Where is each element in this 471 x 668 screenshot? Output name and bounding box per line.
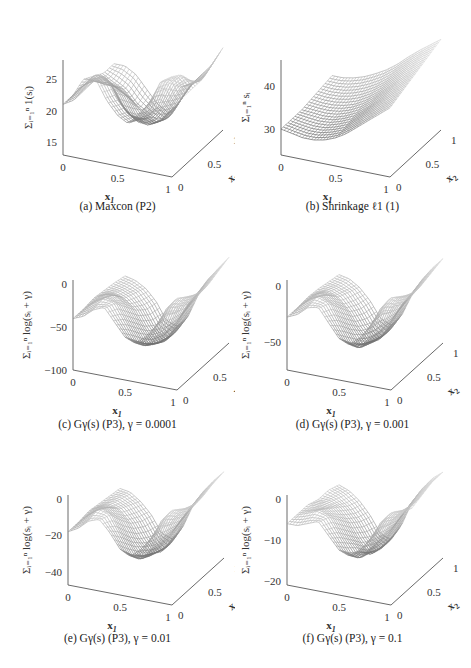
mesh-line (140, 286, 142, 287)
mesh-line (339, 80, 342, 81)
mesh-line (96, 516, 98, 518)
mesh-line (325, 494, 328, 495)
mesh-line (312, 128, 315, 129)
mesh-line (326, 500, 328, 501)
mesh-line (110, 501, 112, 502)
mesh-line (367, 525, 370, 530)
mesh-line (342, 489, 345, 491)
mesh-line (308, 136, 311, 137)
x2-tick-label: 0 (178, 609, 184, 621)
mesh-line (315, 117, 318, 118)
mesh-line (312, 100, 314, 103)
mesh-line (323, 303, 326, 305)
mesh-line (355, 508, 358, 512)
mesh-line (333, 508, 336, 511)
mesh-line (303, 116, 306, 117)
mesh-line (147, 517, 149, 518)
mesh-line (133, 503, 135, 504)
mesh-line (112, 67, 114, 70)
mesh-line (113, 494, 116, 495)
mesh-line (328, 518, 331, 523)
mesh-line (307, 105, 310, 106)
mesh-line (112, 66, 115, 67)
mesh-line (133, 501, 136, 503)
mesh-line (339, 105, 341, 108)
mesh-line (106, 527, 109, 531)
mesh-line (139, 85, 142, 89)
mesh-line (109, 500, 111, 501)
mesh-line (336, 96, 339, 97)
mesh-line (150, 314, 153, 319)
mesh-line (122, 113, 124, 114)
mesh-line (106, 299, 108, 300)
mesh-line (120, 289, 123, 290)
mesh-line (134, 81, 136, 85)
mesh-line (294, 123, 296, 125)
mesh-line (317, 298, 319, 300)
mesh-line (129, 510, 132, 514)
mesh-line (328, 82, 330, 85)
mesh-line (320, 302, 323, 303)
mesh-line (105, 97, 107, 98)
mesh-line (179, 86, 181, 87)
mesh-line (113, 282, 115, 284)
mesh-line (312, 129, 314, 131)
mesh-line (309, 128, 311, 130)
mesh-line (129, 281, 131, 283)
mesh-line (102, 515, 104, 517)
mesh-line (313, 106, 316, 107)
mesh-line (107, 303, 109, 305)
mesh-line (353, 513, 355, 514)
mesh-line (139, 555, 141, 556)
mesh-line (137, 281, 140, 283)
mesh-line (123, 500, 125, 501)
mesh-line (337, 276, 340, 277)
mesh-line (94, 516, 96, 519)
mesh-line (112, 500, 114, 501)
mesh-line (306, 112, 308, 114)
mesh-line (351, 306, 354, 310)
mesh-line (337, 485, 339, 486)
mesh-line (136, 503, 139, 507)
mesh-line (310, 106, 312, 109)
mesh-line (155, 521, 158, 526)
mesh-line (343, 300, 346, 304)
mesh-line (340, 280, 343, 281)
mesh-line (317, 515, 320, 516)
mesh-line (311, 503, 314, 504)
mesh-line (290, 522, 292, 524)
mesh-line (317, 505, 319, 506)
mesh-line (115, 100, 117, 101)
mesh-line (357, 292, 359, 293)
mesh-line (115, 492, 118, 493)
mesh-line (328, 111, 330, 114)
mesh-line (119, 110, 122, 114)
mesh-line (329, 310, 331, 311)
mesh-line (314, 111, 316, 114)
mesh-line (327, 292, 329, 293)
mesh-line (137, 89, 140, 93)
mesh-line (364, 526, 367, 531)
mesh-line (129, 88, 131, 92)
mesh-line (337, 291, 340, 293)
mesh-line (121, 492, 123, 494)
mesh-line (157, 303, 160, 308)
mesh-line (313, 120, 315, 123)
mesh-line (360, 296, 362, 297)
mesh-line (314, 98, 316, 101)
mesh-line (111, 77, 114, 79)
mesh-line (156, 316, 158, 318)
mesh-line (353, 508, 355, 509)
mesh-line (128, 293, 131, 295)
mesh-line (316, 105, 318, 108)
mesh-line (137, 284, 139, 285)
mesh-line (118, 68, 121, 69)
mesh-line (319, 92, 321, 95)
x2-axis-line (390, 130, 441, 177)
mesh-line (348, 297, 350, 298)
mesh-line (134, 507, 136, 508)
surface-mesh (73, 257, 229, 345)
mesh-line (370, 529, 372, 530)
mesh-line (124, 493, 126, 494)
mesh-line (120, 114, 122, 115)
